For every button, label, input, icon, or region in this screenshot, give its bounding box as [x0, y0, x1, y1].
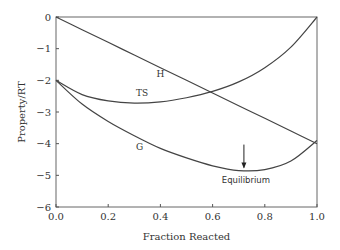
x-axis-title: Fraction Reacted: [143, 231, 231, 242]
equilibrium-label: Equilibrium: [222, 175, 270, 185]
x-tick-label: 0.6: [205, 211, 221, 222]
plot-frame: [56, 17, 317, 207]
plot-axes: 0.00.20.40.60.81.00−1−2−3−4−5−6Fraction …: [16, 12, 325, 243]
x-tick-label: 0.2: [100, 211, 116, 222]
y-tick-label: −3: [36, 107, 51, 118]
x-tick-label: 0.4: [152, 211, 168, 222]
arrowhead-icon: [241, 163, 246, 169]
y-tick-label: −5: [36, 170, 51, 181]
curve-label-g: G: [136, 142, 143, 152]
curve-ts: [56, 17, 317, 103]
y-tick-label: −4: [36, 138, 51, 149]
x-tick-label: 1.0: [309, 211, 325, 222]
curve-h: [56, 17, 317, 144]
y-axis-title: Property/RT: [16, 81, 27, 143]
y-tick-label: −2: [36, 75, 51, 86]
curve-label-ts: TS: [136, 88, 148, 98]
y-tick-label: −6: [36, 202, 51, 213]
plot-curves: [56, 17, 317, 171]
y-tick-label: 0: [45, 12, 51, 23]
curve-label-h: H: [156, 69, 164, 79]
plot-labels: HTSGEquilibrium: [136, 69, 270, 184]
curve-g: [56, 80, 317, 171]
x-tick-label: 0.8: [257, 211, 273, 222]
x-tick-label: 0.0: [48, 211, 64, 222]
y-tick-label: −1: [36, 43, 51, 54]
chart: 0.00.20.40.60.81.00−1−2−3−4−5−6Fraction …: [0, 0, 340, 250]
